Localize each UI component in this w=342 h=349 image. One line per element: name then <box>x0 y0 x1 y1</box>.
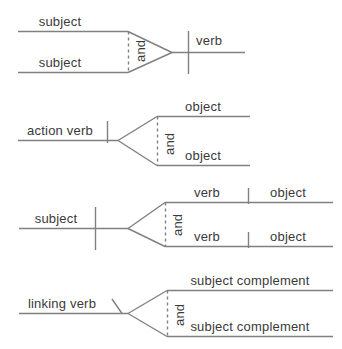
label-subject-complement-top: subject complement <box>190 273 309 288</box>
label-compound-predicate-subject: subject <box>35 211 78 226</box>
label-compound-subject-top: subject <box>39 14 82 29</box>
label-predicate-object-bottom: object <box>270 229 306 244</box>
label-predicate-verb-bottom: verb <box>194 229 220 244</box>
label-linking-verb: linking verb <box>28 296 96 311</box>
label-object-top: object <box>185 99 221 114</box>
complement-slant-mark <box>112 299 122 314</box>
fork-lower-arm <box>118 141 157 166</box>
conjunction-label-compound-complement: and <box>172 304 187 326</box>
label-subject-complement-bottom: subject complement <box>190 319 309 334</box>
label-predicate-verb-top: verb <box>194 185 220 200</box>
label-compound-subject-bottom: subject <box>39 55 82 70</box>
conjunction-label-compound-subject: and <box>133 40 148 62</box>
label-predicate-object-top: object <box>270 185 306 200</box>
fork-upper-arm <box>128 291 167 314</box>
label-compound-subject-verb: verb <box>196 33 222 48</box>
conjunction-label-compound-object: and <box>162 133 177 155</box>
fork-upper-arm <box>128 203 165 229</box>
fork-lower-arm <box>128 314 167 337</box>
fork-upper-arm <box>118 117 157 141</box>
fork-lower-arm <box>128 229 165 247</box>
label-object-bottom: object <box>185 148 221 163</box>
diagram-canvas: subject subject verb and action verb obj… <box>0 0 342 349</box>
conjunction-label-compound-predicate: and <box>170 214 185 236</box>
label-action-verb: action verb <box>27 123 93 138</box>
